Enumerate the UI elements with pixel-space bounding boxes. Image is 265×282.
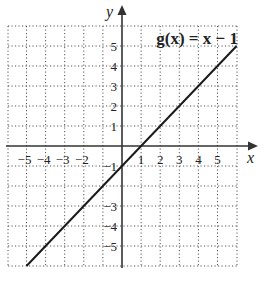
y-tick-label: −5: [103, 239, 117, 254]
x-tick-label: −2: [75, 152, 89, 167]
function-graph: −5−4−3−21234554321−1−3−4−5 y x g(x) = x …: [0, 0, 265, 282]
x-tick-label: −5: [18, 152, 32, 167]
y-tick-label: 4: [111, 59, 118, 74]
x-tick-label: 2: [157, 152, 164, 167]
x-tick-label: 5: [214, 152, 221, 167]
x-tick-label: 1: [138, 152, 145, 167]
y-tick-label: 3: [111, 79, 118, 94]
y-tick-label: 5: [111, 39, 118, 54]
y-axis-label: y: [104, 3, 114, 21]
y-tick-label: −1: [103, 159, 117, 174]
x-tick-label: 3: [176, 152, 183, 167]
x-tick-label: −4: [37, 152, 51, 167]
y-tick-label: −3: [103, 199, 117, 214]
y-tick-label: 2: [111, 99, 118, 114]
y-tick-label: 1: [111, 119, 118, 134]
y-tick-label: −4: [103, 219, 117, 234]
function-label: g(x) = x − 1: [156, 29, 238, 48]
x-tick-label: 4: [195, 152, 202, 167]
x-axis-label: x: [246, 149, 254, 166]
y-axis-arrow-icon: [118, 5, 127, 15]
x-tick-label: −3: [56, 152, 70, 167]
